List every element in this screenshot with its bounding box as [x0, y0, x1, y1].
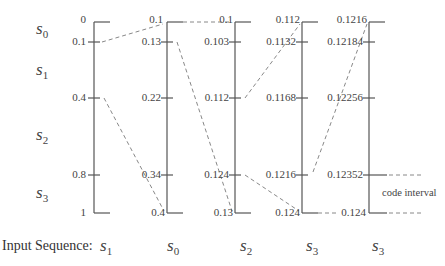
- input-symbol-3: s2: [240, 236, 252, 257]
- axis2-tick-2: 0.22: [142, 91, 161, 103]
- axis3-tick-0: 0.1: [219, 13, 233, 25]
- axis-3: [229, 22, 251, 213]
- axis3-tick-3: 0.124: [204, 168, 229, 180]
- axis2-tick-3: 0.34: [142, 168, 161, 180]
- input-symbol-5: s3: [372, 236, 384, 257]
- axis-1: [88, 22, 110, 213]
- axis1-tick-1: 0.1: [72, 35, 86, 47]
- axis4-tick-4: 0.124: [275, 206, 300, 218]
- axis3-tick-1: 0.103: [204, 35, 229, 47]
- zoom-lines: [102, 22, 421, 213]
- axis4-tick-2: 0.1168: [266, 91, 296, 103]
- axis4-tick-3: 0.1216: [266, 168, 296, 180]
- axis3-tick-2: 0.112: [205, 91, 229, 103]
- arithmetic-coding-diagram: s0 s1 s2 s3 0 0.1 0.4 0.8 1 0.1 0.13 0.2…: [0, 0, 445, 266]
- axis1-tick-2: 0.4: [72, 91, 86, 103]
- input-sequence-label: Input Sequence:: [2, 238, 93, 254]
- input-symbol-1: s1: [100, 236, 112, 257]
- symbol-label-s0: s0: [36, 19, 48, 40]
- input-symbol-2: s0: [167, 236, 179, 257]
- axis-4: [296, 22, 318, 213]
- axis5-tick-3: 0.12352: [327, 168, 363, 180]
- axis1-tick-4: 1: [81, 206, 87, 218]
- axis4-tick-1: 0.1132: [266, 35, 296, 47]
- axis5-tick-2: 0.12256: [327, 91, 363, 103]
- axis2-tick-0: 0.1: [149, 13, 163, 25]
- axis1-tick-0: 0: [81, 13, 87, 25]
- input-symbol-4: s3: [306, 236, 318, 257]
- symbol-label-s1: s1: [36, 60, 48, 81]
- axis5-tick-4: 0.124: [341, 206, 366, 218]
- axis1-tick-3: 0.8: [72, 168, 86, 180]
- symbol-label-s3: s3: [36, 183, 48, 204]
- symbol-label-s2: s2: [36, 125, 48, 146]
- axis-5: [363, 22, 387, 213]
- axis3-tick-4: 0.13: [214, 206, 233, 218]
- axis2-tick-4: 0.4: [151, 206, 165, 218]
- code-interval-label: code interval: [382, 187, 437, 198]
- axis2-tick-1: 0.13: [142, 35, 161, 47]
- axis5-tick-0: 0.1216: [337, 13, 367, 25]
- axis4-tick-0: 0.112: [276, 13, 300, 25]
- axis5-tick-1: 0.12184: [327, 35, 363, 47]
